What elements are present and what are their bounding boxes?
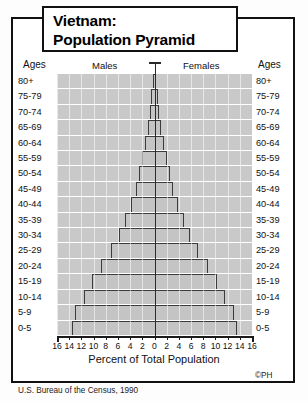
age-label-left-70-74: 70-74 (18, 105, 60, 120)
x-tick (142, 336, 143, 340)
x-tick (215, 336, 216, 340)
age-label-right-50-54: 50-54 (256, 166, 298, 181)
age-label-right-60-64: 60-64 (256, 136, 298, 151)
x-axis-title: Percent of Total Population (0, 353, 308, 365)
age-label-left-35-39: 35-39 (18, 213, 60, 228)
age-label-right-35-39: 35-39 (256, 213, 298, 228)
bar-female-45-49 (155, 182, 174, 197)
title-line-1: Vietnam: (53, 11, 228, 30)
x-tick (155, 336, 156, 340)
age-label-left-30-34: 30-34 (18, 228, 60, 243)
bar-male-50-54 (139, 166, 154, 181)
age-label-right-65-69: 65-69 (256, 120, 298, 135)
x-tick (69, 336, 70, 340)
caption-females: Females (183, 60, 219, 71)
bar-male-65-69 (148, 120, 155, 135)
bar-female-15-19 (155, 274, 217, 289)
age-label-left-45-49: 45-49 (18, 182, 60, 197)
age-label-right-20-24: 20-24 (256, 259, 298, 274)
age-labels-left: 80+75-7970-7465-6960-6455-5950-5445-4940… (18, 74, 60, 336)
bar-male-60-64 (145, 136, 154, 151)
title-line-2: Population Pyramid (53, 30, 228, 49)
age-label-right-25-29: 25-29 (256, 243, 298, 258)
age-label-right-70-74: 70-74 (256, 105, 298, 120)
age-label-right-30-34: 30-34 (256, 228, 298, 243)
age-label-right-5-9: 5-9 (256, 305, 298, 320)
title-plate: Vietnam: Population Pyramid (42, 6, 238, 52)
age-label-right-80+: 80+ (256, 74, 298, 89)
age-label-left-20-24: 20-24 (18, 259, 60, 274)
age-label-right-0-5: 0-5 (256, 321, 298, 336)
age-label-right-15-19: 15-19 (256, 274, 298, 289)
bar-female-5-9 (155, 305, 234, 320)
caption-ages-right: Ages (258, 59, 281, 70)
x-tick (228, 336, 229, 340)
age-label-left-75-79: 75-79 (18, 89, 60, 104)
bar-male-15-19 (92, 274, 154, 289)
bar-female-35-39 (155, 213, 184, 228)
bar-male-35-39 (125, 213, 154, 228)
age-label-left-0-5: 0-5 (18, 321, 60, 336)
age-label-left-55-59: 55-59 (18, 151, 60, 166)
age-label-left-65-69: 65-69 (18, 120, 60, 135)
x-tick (191, 336, 192, 340)
age-label-right-55-59: 55-59 (256, 151, 298, 166)
x-tick-label: 16 (244, 341, 260, 351)
age-label-right-10-14: 10-14 (256, 290, 298, 305)
caption-males: Males (92, 60, 117, 71)
bar-male-0-5 (72, 321, 154, 336)
pyramid-plot-area (57, 74, 252, 336)
bar-female-20-24 (155, 259, 208, 274)
caption-ages-left: Ages (23, 59, 46, 70)
bar-male-25-29 (111, 243, 155, 258)
bar-male-30-34 (119, 228, 155, 243)
x-tick (240, 336, 241, 340)
x-tick (167, 336, 168, 340)
copyright-note: ©PH (255, 371, 272, 380)
column-captions: Ages Males Females Ages (13, 58, 293, 74)
population-pyramid-figure: Vietnam: Population Pyramid Ages Males F… (0, 0, 308, 401)
bar-female-10-14 (155, 290, 225, 305)
x-tick (130, 336, 131, 340)
bar-female-25-29 (155, 243, 199, 258)
age-label-left-10-14: 10-14 (18, 290, 60, 305)
age-label-left-50-54: 50-54 (18, 166, 60, 181)
x-tick (94, 336, 95, 340)
age-labels-right: 80+75-7970-7465-6960-6455-5950-5445-4940… (256, 74, 298, 336)
age-label-right-40-44: 40-44 (256, 197, 298, 212)
age-label-left-15-19: 15-19 (18, 274, 60, 289)
age-label-right-75-79: 75-79 (256, 89, 298, 104)
age-label-left-25-29: 25-29 (18, 243, 60, 258)
bar-male-45-49 (136, 182, 155, 197)
bar-female-30-34 (155, 228, 191, 243)
bar-female-0-5 (155, 321, 237, 336)
bar-male-20-24 (101, 259, 154, 274)
bar-female-40-44 (155, 197, 179, 212)
bar-male-40-44 (131, 197, 155, 212)
bar-male-10-14 (84, 290, 154, 305)
bar-female-50-54 (155, 166, 170, 181)
x-tick (106, 336, 107, 340)
age-label-left-40-44: 40-44 (18, 197, 60, 212)
x-tick (203, 336, 204, 340)
age-label-left-60-64: 60-64 (18, 136, 60, 151)
age-label-left-5-9: 5-9 (18, 305, 60, 320)
bar-male-5-9 (75, 305, 154, 320)
source-note: U.S. Bureau of the Census, 1990 (18, 386, 138, 395)
bar-male-55-59 (142, 151, 154, 166)
x-tick (118, 336, 119, 340)
bar-female-55-59 (155, 151, 167, 166)
x-tick (179, 336, 180, 340)
age-label-left-80+: 80+ (18, 74, 60, 89)
age-label-right-45-49: 45-49 (256, 182, 298, 197)
center-axis-line (155, 62, 156, 336)
x-tick (81, 336, 82, 340)
